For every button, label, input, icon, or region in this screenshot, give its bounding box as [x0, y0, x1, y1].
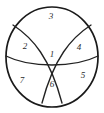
region-label-left: 2 — [23, 41, 28, 51]
region-label-top: 3 — [48, 11, 54, 21]
region-label-bottom-right: 5 — [81, 70, 86, 80]
region-label-bottom-center: 6 — [50, 79, 55, 89]
region-label-center: 1 — [50, 49, 55, 59]
figure-container: 3 2 4 1 7 6 5 — [0, 0, 104, 113]
region-label-right: 4 — [77, 42, 82, 52]
region-label-bottom-left: 7 — [20, 75, 25, 85]
partitioned-circle-diagram: 3 2 4 1 7 6 5 — [0, 0, 104, 113]
